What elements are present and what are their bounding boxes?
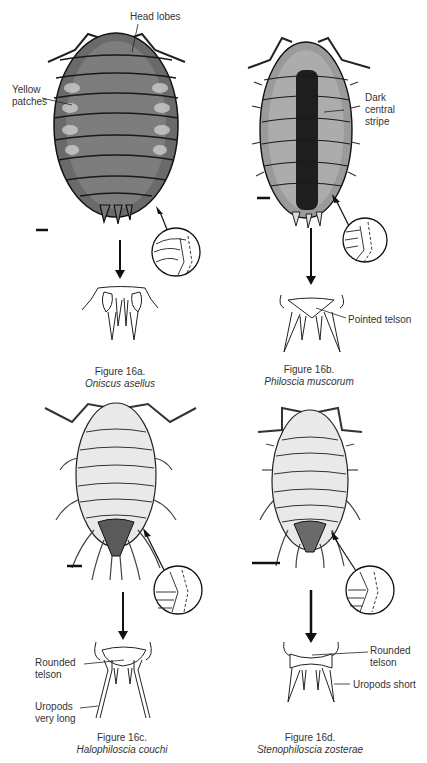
label-rounded-telson-2: telson [370,657,397,668]
caption-species-name: Stenophiloscia zosterae [210,744,410,756]
caption-figure-16d: Figure 16d. Stenophiloscia zosterae [210,732,410,756]
label-rounded-telson-1: Rounded [370,645,411,656]
caption-figure-number: Figure 16d. [285,732,336,743]
label-uropods-short: Uropods short [353,679,416,690]
stenophiloscia-body-illustration [0,0,427,763]
